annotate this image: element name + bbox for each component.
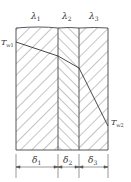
lambda-3-label: λ3 [88,11,99,22]
tw1-label: Tw1 [1,38,14,48]
dim-arrow-1 [16,166,58,168]
tw2-label: Tw2 [111,118,124,128]
layer-3 [79,28,108,150]
delta-3-label: δ3 [88,155,97,166]
wall-diagram: λ1 λ2 λ3 Tw1 Tw2 δ1 δ2 δ3 [0,0,131,182]
wall-top-edge [16,27,108,28]
lambda-1-label: λ1 [30,11,41,22]
delta-1-label: δ1 [32,155,41,166]
dim-arrow-2 [58,166,79,168]
layer-2 [58,28,79,150]
delta-2-label: δ2 [63,155,72,166]
dim-arrow-3 [79,166,108,168]
layer-1 [16,28,58,150]
lambda-2-label: λ2 [61,11,72,22]
